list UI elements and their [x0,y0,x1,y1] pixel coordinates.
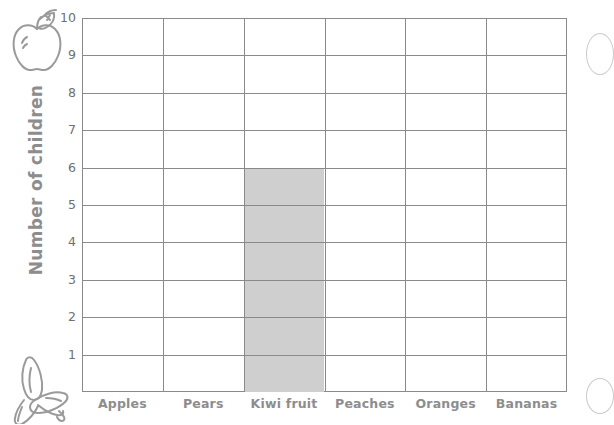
y-tick-label-1: 1 [54,347,76,362]
y-axis-title: Number of children [26,60,46,300]
y-tick-label-10: 10 [54,10,76,25]
partial-circle-decoration-top [586,33,614,75]
y-tick-label-9: 9 [54,47,76,62]
y-tick-label-6: 6 [54,160,76,175]
y-tick-label-7: 7 [54,122,76,137]
x-label-kiwi-fruit: Kiwi fruit [244,396,325,416]
x-label-peaches: Peaches [324,396,405,416]
y-tick-label-4: 4 [54,234,76,249]
y-tick-label-3: 3 [54,272,76,287]
x-label-bananas: Bananas [486,396,567,416]
y-tick-label-5: 5 [54,197,76,212]
x-label-pears: Pears [163,396,244,416]
partial-circle-decoration-bottom [586,378,614,414]
banana-icon [4,352,78,424]
y-tick-label-8: 8 [54,85,76,100]
chart-plot-area: 12345678910 [82,18,567,392]
x-label-apples: Apples [82,396,163,416]
y-tick-label-2: 2 [54,309,76,324]
x-axis-category-labels: ApplesPearsKiwi fruitPeachesOrangesBanan… [82,396,567,416]
y-axis-tick-labels: 12345678910 [82,18,567,392]
x-label-oranges: Oranges [405,396,486,416]
